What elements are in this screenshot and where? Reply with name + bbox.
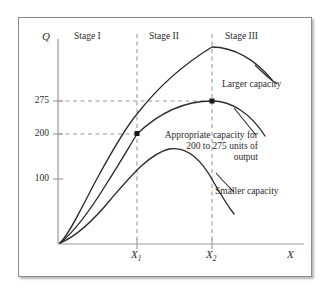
x-axis-label: X	[287, 248, 294, 260]
x-tick-label-x1: X1	[131, 248, 141, 264]
annotation-larger-capacity: Larger capacity	[222, 79, 281, 90]
annotation-appropriate-capacity: Appropriate capacity for 200 to 275 unit…	[137, 130, 258, 164]
annotation-appropriate-capacity-line1: Appropriate capacity for	[137, 130, 258, 141]
chart-figure: Q X Stage I Stage II Stage III 275 200 1…	[18, 17, 312, 277]
annotation-appropriate-capacity-line3: output	[137, 152, 258, 163]
y-tick-label-275: 275	[23, 95, 49, 106]
x-tick-label-x2: X2	[206, 248, 216, 264]
x-tick-label-x2-subscript: 2	[213, 254, 217, 263]
stage-3-label: Stage III	[225, 31, 258, 42]
x-tick-label-x2-base: X	[206, 248, 213, 260]
x-tick-label-x1-base: X	[131, 248, 138, 260]
stage-1-label: Stage I	[74, 31, 101, 42]
marker-x2-275	[210, 99, 215, 104]
annotation-appropriate-capacity-line2: 200 to 275 units of	[137, 141, 258, 152]
y-tick-label-100: 100	[23, 173, 49, 184]
annotation-smaller-capacity: Smaller capacity	[215, 186, 279, 197]
stage-2-label: Stage II	[149, 31, 179, 42]
x-tick-label-x1-subscript: 1	[138, 254, 142, 263]
y-tick-label-200: 200	[23, 128, 49, 139]
y-axis-label: Q	[42, 30, 50, 42]
